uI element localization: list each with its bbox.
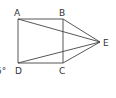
segment-ae: [18, 19, 100, 42]
partial-angle-label: 5°: [0, 66, 6, 76]
label-d: D: [15, 66, 22, 76]
label-b: B: [59, 8, 65, 18]
label-a: A: [14, 8, 21, 18]
label-e: E: [103, 38, 109, 48]
segment-be: [63, 19, 100, 42]
segment-de: [18, 42, 100, 63]
geometry-diagram: A B C D E 5°: [0, 0, 116, 98]
label-c: C: [59, 66, 65, 76]
diagram-svg: A B C D E 5°: [0, 0, 116, 98]
segment-ce: [63, 42, 100, 63]
